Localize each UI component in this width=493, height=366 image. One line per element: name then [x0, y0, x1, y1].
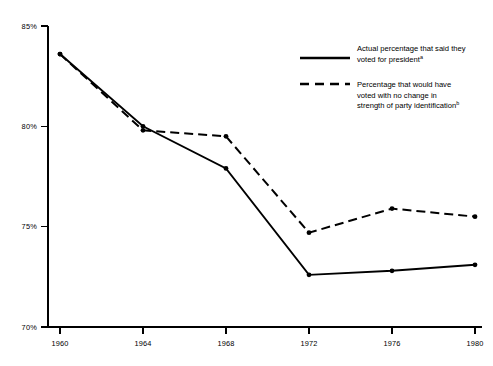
legend-actual-line-1: Actual percentage that said they	[357, 44, 466, 53]
x-tick-label-1976: 1976	[383, 339, 400, 348]
x-tick-label-1960: 1960	[51, 339, 68, 348]
legend-entry-counterfactual: Percentage that would have voted with no…	[300, 80, 459, 110]
data-point	[390, 268, 395, 273]
x-tick-label-1972: 1972	[300, 339, 317, 348]
legend-counterfactual-line-2: voted with no change in	[357, 91, 437, 100]
data-point	[473, 262, 478, 267]
line-chart: 85% 80% 75% 70% 1960 1964 1968 1972 1976…	[0, 0, 493, 366]
legend-counterfactual-line-3: strength of party identificationb	[357, 100, 459, 110]
legend-actual-line-2: voted for presidenta	[357, 54, 423, 64]
x-tick-label-1964: 1964	[134, 339, 151, 348]
legend-actual-line-2-text: voted for president	[357, 55, 421, 64]
data-point	[307, 272, 312, 277]
x-tick-label-1968: 1968	[217, 339, 234, 348]
legend-entry-actual: Actual percentage that said they voted f…	[300, 44, 466, 64]
x-axis-labels: 1960 1964 1968 1972 1976 1980	[51, 339, 483, 348]
x-tick-label-1980: 1980	[466, 339, 483, 348]
y-axis-ticks	[41, 26, 48, 327]
y-tick-label-85: 85%	[22, 22, 38, 31]
y-tick-label-80: 80%	[22, 122, 38, 131]
chart-legend: Actual percentage that said they voted f…	[300, 44, 466, 110]
chart-canvas: 85% 80% 75% 70% 1960 1964 1968 1972 1976…	[0, 0, 493, 366]
legend-counterfactual-line-3-text: strength of party identification	[357, 101, 456, 110]
data-point	[141, 124, 146, 129]
y-tick-label-75: 75%	[22, 222, 38, 231]
data-point	[390, 206, 395, 211]
data-point	[473, 214, 478, 219]
legend-counterfactual-line-1: Percentage that would have	[357, 80, 451, 89]
y-axis-labels: 85% 80% 75% 70%	[22, 22, 38, 332]
legend-counterfactual-superscript: b	[456, 100, 459, 106]
data-point	[224, 166, 229, 171]
y-tick-label-70: 70%	[22, 323, 38, 332]
legend-actual-superscript: a	[420, 54, 423, 60]
data-point	[58, 52, 63, 57]
data-point	[224, 134, 229, 139]
x-axis-ticks	[60, 327, 475, 334]
data-point	[307, 230, 312, 235]
